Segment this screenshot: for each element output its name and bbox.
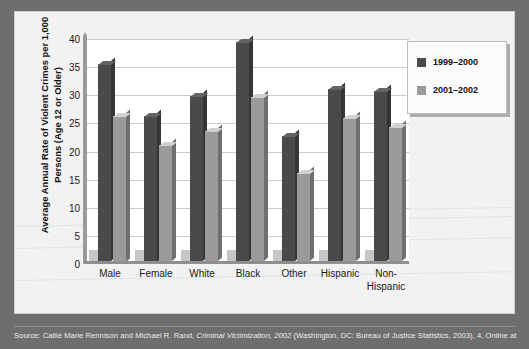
x-axis-tick-label: Non- Hispanic: [363, 268, 409, 293]
y-axis-tick-label: 30: [69, 90, 80, 101]
bar-group: [363, 39, 409, 264]
x-axis-tick-label: Female: [133, 268, 179, 281]
bar-side-facet: [310, 166, 314, 261]
bar-side-facet: [218, 124, 222, 261]
legend-item-label: 1999–2000: [433, 57, 478, 67]
y-axis-tick-label: 35: [69, 62, 80, 73]
chart-figure: Average Annual Rate of Violent Crimes pe…: [14, 11, 515, 314]
legend-swatch-icon: [417, 58, 426, 67]
bar[interactable]: [374, 91, 387, 264]
y-axis-tick-label: 20: [69, 146, 80, 157]
source-divider: [14, 326, 515, 327]
bar-group: [271, 39, 317, 264]
bar[interactable]: [236, 42, 249, 264]
bar-face: [205, 131, 218, 264]
bar-face: [282, 136, 295, 264]
bar-face: [236, 42, 249, 264]
bar[interactable]: [205, 131, 218, 264]
bar[interactable]: [113, 116, 126, 265]
legend-item-label: 2001–2002: [433, 85, 478, 95]
bar[interactable]: [251, 97, 264, 264]
bar-side-facet: [402, 120, 406, 261]
x-axis-baseline: [84, 261, 409, 264]
y-axis-tick-label: 40: [69, 34, 80, 45]
bar-group: [225, 39, 271, 264]
y-axis-tick-label: 0: [74, 259, 80, 270]
y-axis-tick-label: 25: [69, 118, 80, 129]
bar-face: [328, 89, 341, 265]
bar[interactable]: [389, 127, 402, 264]
bar[interactable]: [297, 173, 310, 264]
bar[interactable]: [144, 116, 157, 265]
bar[interactable]: [159, 145, 172, 264]
y-axis-arrow-icon: [83, 32, 87, 36]
source-prefix: Source: Callie Marie Rennison and Michae…: [14, 331, 196, 340]
bar-side-facet: [172, 138, 176, 261]
y-axis-tick-label: 15: [69, 174, 80, 185]
source-note: Source: Callie Marie Rennison and Michae…: [14, 331, 524, 340]
bar-face: [343, 118, 356, 264]
bar[interactable]: [190, 96, 203, 264]
bar[interactable]: [282, 136, 295, 264]
x-axis-tick-label: White: [179, 268, 225, 281]
plot-area: 0510152025303540: [87, 39, 409, 264]
bar-group: [317, 39, 363, 264]
y-axis-title: Average Annual Rate of Violent Crimes pe…: [38, 15, 64, 235]
bar-side-facet: [264, 90, 268, 261]
bar-face: [374, 91, 387, 264]
legend-item-2001-2002: 2001–2002: [417, 85, 478, 95]
bar-face: [297, 173, 310, 264]
x-axis-tick-label: Hispanic: [317, 268, 363, 281]
bar-face: [98, 64, 111, 264]
bar-series-container: [87, 39, 409, 264]
source-suffix: (Washington, DC: Bureau of Justice Stati…: [291, 331, 516, 340]
bar-face: [190, 96, 203, 264]
bar-face: [144, 116, 157, 265]
bar-group: [87, 39, 133, 264]
chart-legend: 1999–2000 2001–2002: [407, 41, 507, 114]
bar-face: [251, 97, 264, 264]
x-axis-tick-label: Other: [271, 268, 317, 281]
bar[interactable]: [98, 64, 111, 264]
bar-group: [133, 39, 179, 264]
bar[interactable]: [343, 118, 356, 264]
x-axis-tick-label: Black: [225, 268, 271, 281]
x-axis-labels: MaleFemaleWhiteBlackOtherHispanicNon- Hi…: [87, 268, 409, 306]
y-axis-tick-label: 5: [74, 230, 80, 241]
bar-group: [179, 39, 225, 264]
y-axis-tick-label: 10: [69, 202, 80, 213]
x-axis-tick-label: Male: [87, 268, 133, 281]
legend-item-1999-2000: 1999–2000: [417, 57, 478, 67]
bar-side-facet: [356, 112, 360, 261]
source-title: Criminal Victimization, 2002: [196, 331, 291, 340]
bar-face: [159, 145, 172, 264]
bar[interactable]: [328, 89, 341, 265]
bar-face: [389, 127, 402, 264]
bar-side-facet: [126, 109, 130, 261]
bar-face: [113, 116, 126, 265]
legend-swatch-icon: [417, 86, 426, 95]
